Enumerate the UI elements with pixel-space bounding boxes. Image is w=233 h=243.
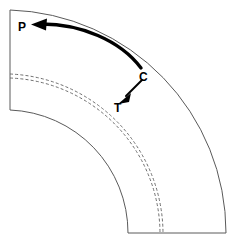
outer-arc-boundary xyxy=(10,10,226,233)
dashed-centerline-outer xyxy=(10,74,163,233)
label-point-p: P xyxy=(18,21,26,33)
curved-arrow-shaft-c-to-p xyxy=(42,24,141,68)
annular-sector-diagram xyxy=(0,0,233,243)
label-point-t: T xyxy=(114,102,121,114)
label-point-c: C xyxy=(139,71,148,83)
dashed-centerline-inner xyxy=(10,78,160,233)
figure-container: P C T xyxy=(0,0,233,243)
inner-arc-boundary xyxy=(10,110,128,233)
curved-arrow-head-at-p xyxy=(31,19,47,31)
